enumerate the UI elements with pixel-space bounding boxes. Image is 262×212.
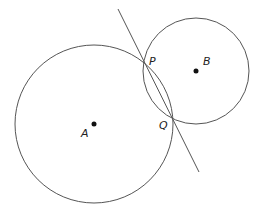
label-p: P bbox=[149, 55, 156, 68]
label-a: A bbox=[80, 127, 89, 140]
geometry-diagram: A B P Q bbox=[0, 0, 262, 212]
label-b: B bbox=[203, 55, 211, 68]
point-b-dot bbox=[194, 69, 199, 74]
point-a-dot bbox=[92, 122, 97, 127]
label-q: Q bbox=[159, 119, 168, 132]
